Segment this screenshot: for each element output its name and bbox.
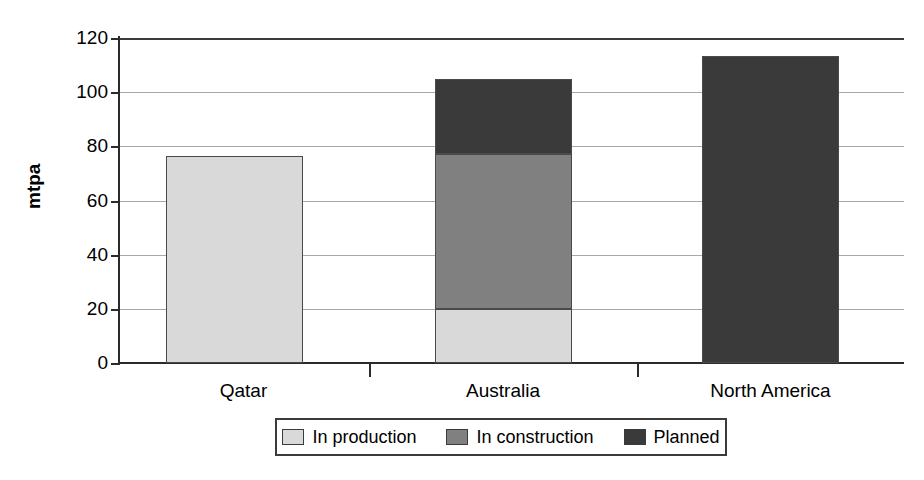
- legend-swatch: [624, 429, 646, 445]
- bar-north-america: [702, 38, 839, 363]
- bar-segment-in-production: [435, 309, 572, 363]
- y-tick-label: 40: [48, 245, 108, 264]
- y-tick-label: 80: [48, 136, 108, 155]
- y-tick-label: 120: [48, 28, 108, 47]
- y-tick-label: 0: [48, 353, 108, 372]
- x-category-label: Qatar: [118, 380, 369, 402]
- chart-figure: mtpa 120100806040200 QatarAustraliaNorth…: [0, 0, 924, 480]
- chart-legend: In productionIn constructionPlanned: [275, 418, 727, 456]
- y-axis-tick-labels: 120100806040200: [30, 0, 108, 480]
- bar-qatar: [166, 38, 303, 363]
- x-category-label: North America: [637, 380, 904, 402]
- legend-swatch: [282, 429, 304, 445]
- y-tick-label: 60: [48, 191, 108, 210]
- bar-segment-planned: [702, 56, 839, 363]
- bar-segment-in-production: [166, 156, 303, 363]
- x-category-label: Australia: [369, 380, 637, 402]
- y-tick-label: 20: [48, 299, 108, 318]
- x-tick-mark: [637, 364, 639, 377]
- y-axis-line: [118, 36, 120, 365]
- legend-item: Planned: [624, 428, 720, 446]
- legend-swatch: [446, 429, 468, 445]
- y-tick-label: 100: [48, 82, 108, 101]
- legend-item: In construction: [446, 428, 593, 446]
- legend-label: In construction: [476, 428, 593, 446]
- x-tick-mark: [369, 364, 371, 377]
- bar-segment-planned: [435, 79, 572, 155]
- bar-segment-in-construction: [435, 154, 572, 308]
- legend-item: In production: [282, 428, 416, 446]
- bar-australia: [435, 38, 572, 363]
- legend-label: In production: [312, 428, 416, 446]
- legend-label: Planned: [654, 428, 720, 446]
